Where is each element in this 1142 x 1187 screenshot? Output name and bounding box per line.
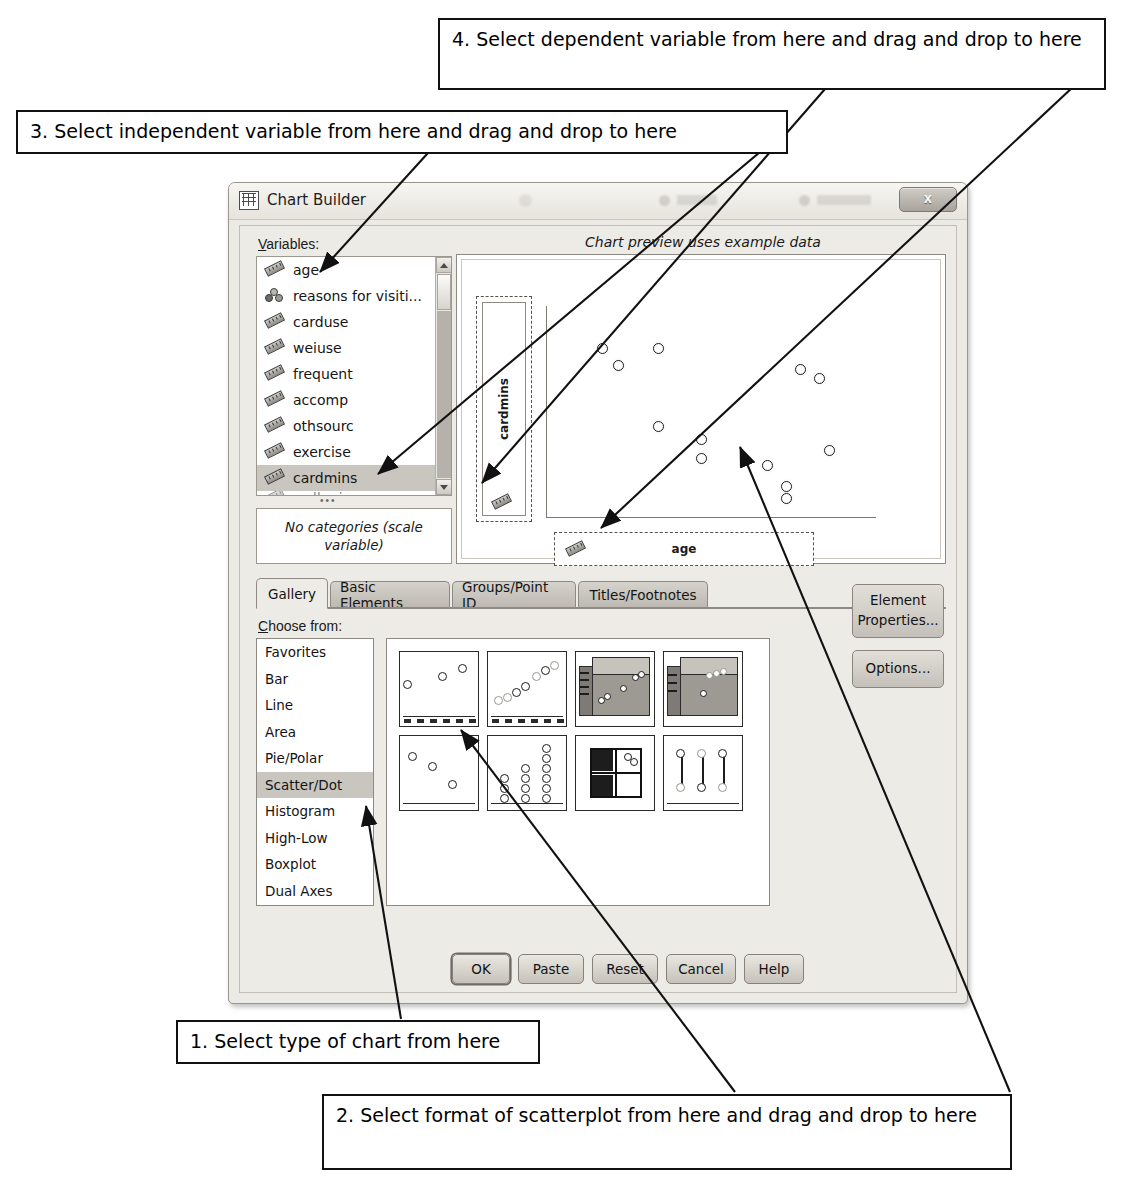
scatter-point [795, 364, 806, 375]
scatter-point [762, 460, 773, 471]
thumb-grouped-scatter[interactable] [487, 651, 567, 727]
gallery-type-dual-axes[interactable]: Dual Axes [257, 878, 373, 905]
variable-label: age [293, 262, 319, 278]
gallery-type-high-low[interactable]: High-Low [257, 825, 373, 852]
variable-label: frequent [293, 366, 353, 382]
callout-3: 3. Select independent variable from here… [16, 110, 788, 154]
background-ghost-icon [659, 195, 670, 206]
cancel-button[interactable]: Cancel [666, 954, 736, 984]
resize-grip[interactable]: ••• [320, 498, 360, 504]
scatter-point [824, 445, 835, 456]
element-properties-line2: Properties... [857, 611, 938, 631]
thumb-simple-scatter[interactable] [399, 651, 479, 727]
tab-gallery[interactable]: Gallery [256, 578, 328, 609]
variable-item[interactable]: weiuse [257, 335, 451, 361]
element-properties-line1: Element [870, 591, 926, 611]
chart-preview-panel[interactable]: cardmins age [456, 254, 946, 564]
variable-label: reasons for visiti... [293, 288, 422, 304]
scatter-point [613, 360, 624, 371]
scatter-point [597, 343, 608, 354]
variables-scrollbar[interactable] [435, 257, 451, 495]
tab-underline [256, 607, 946, 609]
dialog-content: Variables: age reasons for visiti... car… [239, 225, 957, 993]
thumb-simple-dot-plot[interactable] [487, 735, 567, 811]
callout-2: 2. Select format of scatterplot from her… [322, 1094, 1012, 1170]
dialog-titlebar[interactable]: Chart Builder x [229, 183, 967, 220]
help-button[interactable]: Help [744, 954, 804, 984]
grid-icon [239, 191, 259, 210]
tab-basic-elements[interactable]: Basic Elements [330, 581, 450, 608]
variables-label: Variables: [258, 236, 319, 252]
background-ghost-text [817, 195, 871, 205]
y-axis-label: cardmins [497, 378, 511, 440]
preview-caption: Chart preview uses example data [468, 234, 938, 250]
scale-ruler-icon [264, 470, 286, 486]
scale-ruler-icon [264, 444, 286, 460]
variable-item[interactable]: accomp [257, 387, 451, 413]
chart-preview-canvas[interactable]: cardmins age [461, 259, 941, 559]
chart-builder-dialog: Chart Builder x Variables: age reasons f… [228, 182, 968, 1004]
variable-item[interactable]: walkmins [257, 491, 451, 496]
dialog-title: Chart Builder [267, 191, 366, 209]
scroll-down-icon[interactable] [436, 479, 452, 495]
x-axis-drop-zone[interactable]: age [554, 532, 814, 566]
variable-item[interactable]: reasons for visiti... [257, 283, 451, 309]
variable-item[interactable]: frequent [257, 361, 451, 387]
tab-titles-footnotes[interactable]: Titles/Footnotes [578, 581, 708, 608]
gallery-type-boxplot[interactable]: Boxplot [257, 851, 373, 878]
scrollbar-thumb[interactable] [437, 274, 451, 310]
variable-label: accomp [293, 392, 348, 408]
variable-item[interactable]: othsourc [257, 413, 451, 439]
element-properties-button[interactable]: Element Properties... [852, 584, 944, 638]
close-icon[interactable]: x [899, 187, 957, 212]
thumb-drop-line[interactable] [575, 735, 655, 811]
y-axis-drop-zone[interactable]: cardmins [476, 296, 532, 522]
variable-label: exercise [293, 444, 351, 460]
categories-note: No categories (scale variable) [257, 518, 451, 554]
callout-1: 1. Select type of chart from here [176, 1020, 540, 1064]
variables-list[interactable]: age reasons for visiti... carduse weiuse… [256, 256, 452, 496]
nominal-circles-icon [264, 288, 286, 304]
scale-ruler-icon [264, 314, 286, 330]
thumb-3d-scatter[interactable] [575, 651, 655, 727]
categories-panel: No categories (scale variable) [256, 508, 452, 564]
ok-button[interactable]: OK [452, 954, 510, 984]
variable-item-cardmins[interactable]: cardmins [257, 465, 451, 491]
paste-button[interactable]: Paste [518, 954, 584, 984]
gallery-type-pie-polar[interactable]: Pie/Polar [257, 745, 373, 772]
variable-item[interactable]: carduse [257, 309, 451, 335]
scrollbar-track[interactable] [437, 311, 451, 478]
scatter-point [696, 434, 707, 445]
thumb-1d-dot-plot[interactable] [663, 735, 743, 811]
reset-button[interactable]: Reset [592, 954, 658, 984]
gallery-thumbnails-grid [399, 651, 743, 811]
variable-item[interactable]: age [257, 257, 451, 283]
scale-ruler-icon [491, 495, 513, 511]
dialog-button-bar: OK Paste Reset Cancel Help [240, 948, 956, 994]
variable-label: carduse [293, 314, 348, 330]
gallery-type-line[interactable]: Line [257, 692, 373, 719]
variable-label: cardmins [293, 470, 357, 486]
variable-item[interactable]: exercise [257, 439, 451, 465]
gallery-thumbnails-panel [386, 638, 770, 906]
thumb-scatter-matrix[interactable] [399, 735, 479, 811]
options-button[interactable]: Options... [852, 650, 944, 688]
scale-ruler-icon [264, 262, 286, 278]
gallery-type-area[interactable]: Area [257, 719, 373, 746]
gallery-type-list[interactable]: Favorites Bar Line Area Pie/Polar Scatte… [256, 638, 374, 906]
gallery-type-favorites[interactable]: Favorites [257, 639, 373, 666]
background-ghost-icon [799, 195, 810, 206]
gallery-type-bar[interactable]: Bar [257, 666, 373, 693]
gallery-type-histogram[interactable]: Histogram [257, 798, 373, 825]
scroll-up-icon[interactable] [436, 257, 452, 273]
background-ghost-icon [519, 194, 532, 207]
tab-groups-point-id[interactable]: Groups/Point ID [452, 581, 576, 608]
scale-ruler-icon [264, 340, 286, 356]
choose-from-label: Choose from: [258, 618, 342, 634]
scatter-point [814, 373, 825, 384]
scale-ruler-icon [264, 392, 286, 408]
scatter-point [653, 343, 664, 354]
gallery-type-scatter-dot[interactable]: Scatter/Dot [257, 772, 373, 799]
thumb-3d-grouped-scatter[interactable] [663, 651, 743, 727]
scale-ruler-icon [264, 366, 286, 382]
